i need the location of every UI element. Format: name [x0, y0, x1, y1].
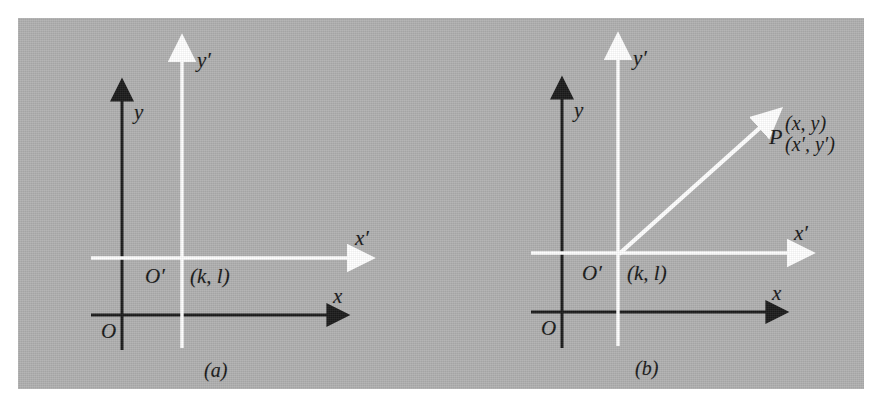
panel-a-graphics: [18, 18, 441, 389]
axis-label-yprime-a: y′: [197, 50, 211, 71]
axis-label-xprime-a: x′: [355, 228, 369, 249]
axis-label-x-a: x: [333, 286, 342, 307]
axis-label-x-b: x: [772, 283, 781, 304]
panel-b-graphics: [441, 18, 864, 389]
origin-coords-a: (k, l): [190, 266, 230, 287]
origin-coords-b: (k, l): [627, 263, 667, 284]
axis-label-yprime-b: y′: [633, 48, 647, 69]
point-label-P: P: [769, 126, 782, 148]
panel-caption-b: (b): [635, 358, 658, 378]
panel-b: y x y′ x′ O O′ (k, l) P (x, y) (x′, y′) …: [441, 18, 864, 389]
origin-label-O-b: O: [541, 318, 556, 339]
panel-a: y x y′ x′ O O′ (k, l) (a): [18, 18, 441, 389]
origin-label-Oprime-b: O′: [582, 263, 602, 284]
vector-to-point-P: [619, 125, 763, 254]
figure-plate: y x y′ x′ O O′ (k, l) (a): [18, 18, 864, 389]
axis-label-y-a: y: [134, 102, 143, 123]
axis-label-y-b: y: [574, 100, 583, 121]
figure-root: y x y′ x′ O O′ (k, l) (a): [0, 0, 881, 405]
panel-caption-a: (a): [204, 360, 227, 380]
origin-label-Oprime-a: O′: [145, 266, 165, 287]
origin-label-O-a: O: [101, 321, 116, 342]
point-coords-group: (x, y) (x′, y′): [785, 113, 835, 155]
point-coords-original: (x, y): [785, 113, 835, 134]
point-coords-translated: (x′, y′): [785, 134, 835, 155]
axis-label-xprime-b: x′: [794, 223, 808, 244]
